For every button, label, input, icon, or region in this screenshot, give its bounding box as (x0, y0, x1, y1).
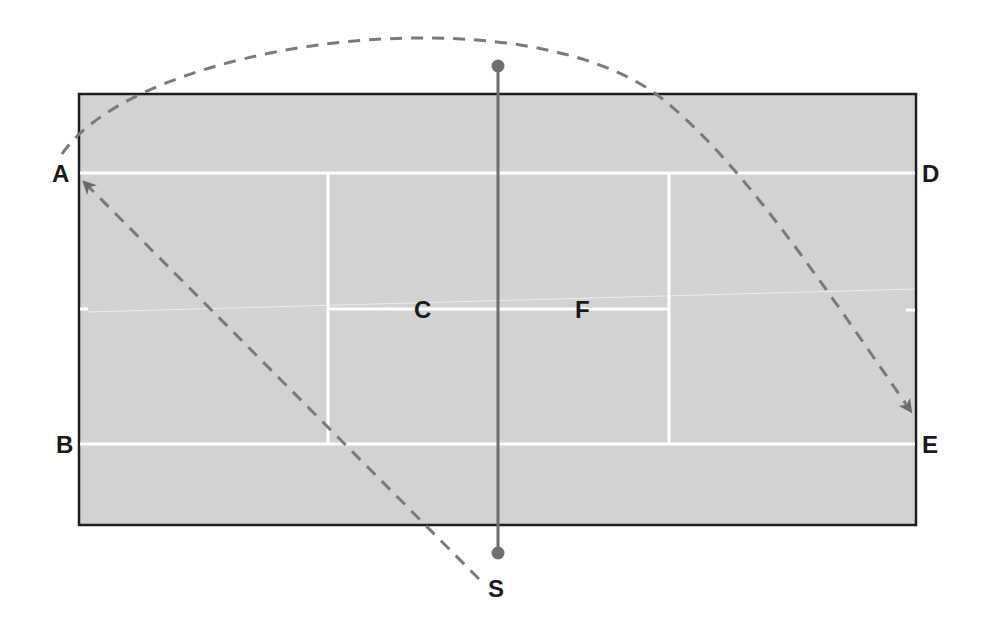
label-F: F (575, 296, 590, 323)
label-D: D (922, 160, 939, 187)
tennis-court-diagram: A B C D E F S (0, 0, 991, 636)
label-E: E (922, 431, 938, 458)
net-post-top (492, 60, 505, 73)
label-A: A (52, 160, 69, 187)
label-B: B (56, 431, 73, 458)
label-S: S (488, 575, 504, 602)
label-C: C (414, 296, 431, 323)
net-post-bottom (492, 547, 505, 560)
